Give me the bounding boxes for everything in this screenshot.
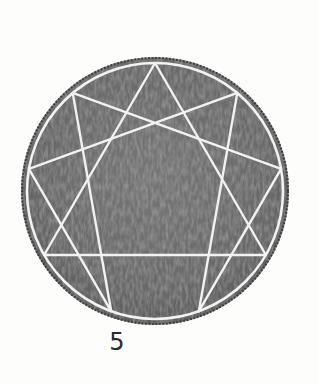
figure-number-label: 5 [105,328,129,356]
enneagram-disk [21,57,289,325]
enneagram-figure [0,0,318,384]
